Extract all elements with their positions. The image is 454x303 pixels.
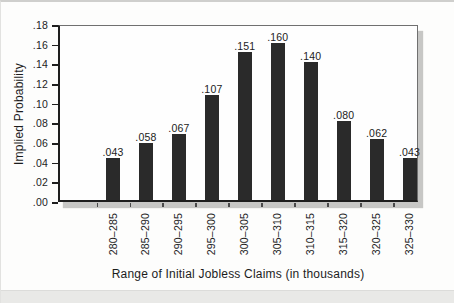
y-tick: [52, 25, 58, 27]
y-tick-label: .02: [14, 176, 48, 189]
x-tick-label: 325–330: [403, 213, 416, 255]
y-tick: [52, 123, 58, 125]
bar: [337, 121, 351, 200]
y-tick-label: .00: [14, 196, 48, 209]
figure-bar-chart: Implied Probability .043280–285.058285–2…: [0, 0, 454, 303]
bar: [403, 158, 417, 200]
y-tick-label: .14: [14, 58, 48, 71]
bar: [271, 43, 285, 200]
y-tick: [52, 64, 58, 66]
x-tick-label: 315–320: [337, 213, 350, 255]
bar: [238, 52, 252, 201]
y-tick: [52, 104, 58, 106]
bar-value-label: .062: [366, 127, 387, 139]
y-tick: [52, 143, 58, 145]
bar-value-label: .043: [399, 146, 420, 158]
x-tick: [195, 203, 197, 207]
x-tick: [228, 203, 230, 207]
x-tick-label: 285–290: [139, 213, 152, 255]
x-tick-label: 280–285: [107, 213, 120, 255]
y-tick-label: .08: [14, 117, 48, 130]
x-tick: [294, 203, 296, 207]
y-tick-label: .16: [14, 39, 48, 52]
x-tick-label: 290–295: [172, 213, 185, 255]
bar-value-label: .140: [300, 50, 321, 62]
bar-value-label: .043: [102, 146, 123, 158]
bar-value-label: .080: [333, 109, 354, 121]
page-edge-strip: [1, 290, 454, 303]
y-tick-label: .18: [14, 19, 48, 32]
y-tick-label: .10: [14, 98, 48, 111]
bar: [172, 134, 186, 200]
x-tick: [360, 203, 362, 207]
x-axis-title: Range of Initial Jobless Claims (in thou…: [58, 267, 418, 281]
bar: [304, 62, 318, 200]
y-tick: [52, 182, 58, 184]
y-tick: [52, 84, 58, 86]
bar-value-label: .160: [267, 31, 288, 43]
y-tick-label: .06: [14, 137, 48, 150]
y-tick: [52, 202, 58, 204]
y-tick-label: .04: [14, 157, 48, 170]
x-tick: [327, 203, 329, 207]
x-tick-label: 305–310: [271, 213, 284, 255]
bar-value-label: .107: [201, 83, 222, 95]
x-tick: [162, 203, 164, 207]
x-tick-label: 310–315: [304, 213, 317, 255]
y-tick: [52, 163, 58, 165]
x-tick-label: 300–305: [238, 213, 251, 255]
x-tick: [130, 203, 132, 207]
x-tick: [393, 203, 395, 207]
x-tick: [97, 203, 99, 207]
y-tick-label: .12: [14, 78, 48, 91]
bar-value-label: .151: [234, 40, 255, 52]
bar: [205, 95, 219, 200]
y-tick: [52, 45, 58, 47]
bar-value-label: .058: [135, 131, 156, 143]
bar: [106, 158, 120, 200]
bar-value-label: .067: [168, 122, 189, 134]
x-tick-label: 320–325: [370, 213, 383, 255]
x-tick-label: 295–300: [205, 213, 218, 255]
bar: [370, 139, 384, 200]
plot-area: .043280–285.058285–290.067290–295.107295…: [58, 25, 418, 202]
x-tick: [261, 203, 263, 207]
bar: [139, 143, 153, 200]
